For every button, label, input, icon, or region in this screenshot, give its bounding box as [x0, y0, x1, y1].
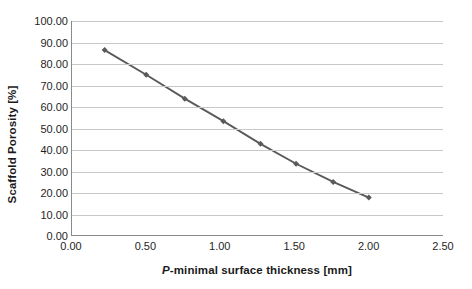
x-axis-tick-labels: 0.000.501.001.502.002.50 [0, 240, 472, 256]
x-tick-label: 0.50 [115, 240, 175, 252]
gridline [72, 64, 443, 65]
gridline [72, 107, 443, 108]
y-tick-label: 50.00 [22, 123, 68, 135]
gridline [72, 215, 443, 216]
scaffold-porosity-chart: Scaffold Porosity [%] 0.0010.0020.0030.0… [0, 0, 472, 289]
x-axis-title: P-minimal surface thickness [mm] [71, 264, 443, 276]
x-tick-label: 0.00 [41, 240, 101, 252]
x-tick-label: 1.50 [264, 240, 324, 252]
y-tick-label: 30.00 [22, 166, 68, 178]
gridline [72, 150, 443, 151]
x-tick-label: 1.00 [190, 240, 250, 252]
x-axis-title-rest: -minimal surface thickness [mm] [170, 264, 352, 276]
y-tick-label: 100.00 [22, 15, 68, 27]
gridline [72, 172, 443, 173]
y-tick-label: 60.00 [22, 101, 68, 113]
gridline [72, 43, 443, 44]
data-point-marker [330, 179, 336, 185]
y-tick-label: 90.00 [22, 37, 68, 49]
gridline [72, 129, 443, 130]
y-tick-label: 40.00 [22, 144, 68, 156]
y-tick-label: 20.00 [22, 187, 68, 199]
plot-area [71, 21, 443, 236]
gridline [72, 193, 443, 194]
x-tick-label: 2.00 [339, 240, 399, 252]
y-tick-label: 70.00 [22, 80, 68, 92]
x-axis-title-italic-p: P [162, 264, 170, 276]
gridline [72, 86, 443, 87]
data-point-marker [366, 195, 372, 201]
gridline [72, 21, 443, 22]
series-line [105, 50, 369, 197]
y-tick-label: 10.00 [22, 209, 68, 221]
x-tick-label: 2.50 [413, 240, 472, 252]
y-tick-label: 80.00 [22, 58, 68, 70]
